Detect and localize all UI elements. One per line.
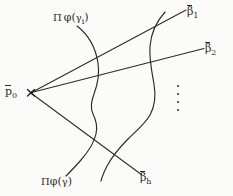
label-beta-2: β2 <box>205 42 216 57</box>
beta-symbol: β <box>140 171 146 183</box>
curve-pi-phi-gamma-i <box>66 26 99 176</box>
apex-point-marker <box>28 90 35 97</box>
ellipsis-dot <box>177 101 179 103</box>
ellipsis-dot <box>177 85 179 87</box>
ray-beta-h <box>32 94 143 176</box>
label-pi-phi-gamma-i: Πφ(γi) <box>53 12 89 26</box>
beta-subscript: 2 <box>211 48 216 57</box>
beta-symbol: β <box>205 42 211 54</box>
beta-symbol: β <box>187 5 193 17</box>
label-beta-1: β1 <box>187 5 198 20</box>
vertical-ellipsis <box>177 85 179 111</box>
pi-symbol: Π <box>53 12 62 23</box>
beta-subscript: h <box>146 177 151 186</box>
label-beta-h: βh <box>140 171 152 186</box>
pi-symbol: Π <box>41 176 50 187</box>
p-subscript: 0 <box>12 91 17 100</box>
close-paren: ) <box>84 11 88 24</box>
curve-pi-phi-gamma <box>101 12 165 181</box>
beta-subscript: 1 <box>193 11 198 20</box>
figure-canvas: Πφ(γi) Πφ(γ) β1 β2 βh p0 <box>0 0 233 196</box>
ellipsis-dot <box>177 109 179 111</box>
close-paren: ) <box>68 175 72 188</box>
label-pi-phi-gamma: Πφ(γ) <box>41 176 72 187</box>
figure-drawing <box>0 0 233 196</box>
ellipsis-dot <box>177 93 179 95</box>
label-apex-p-0: p0 <box>5 85 17 100</box>
p-symbol: p <box>5 85 12 97</box>
